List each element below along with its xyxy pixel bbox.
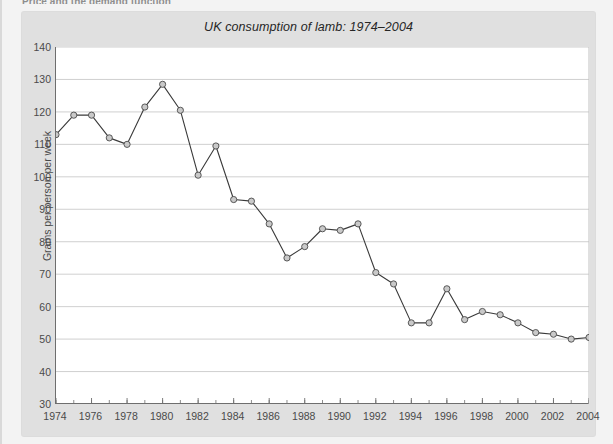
y-axis-tick-label: 40	[39, 366, 51, 378]
data-point	[248, 198, 254, 204]
x-axis-tick-label: 1976	[79, 410, 102, 422]
data-point	[568, 336, 574, 342]
data-point	[106, 135, 112, 141]
x-axis-tick-label: 2000	[505, 410, 528, 422]
data-point	[337, 227, 343, 233]
data-point	[390, 281, 396, 287]
data-point	[71, 112, 77, 118]
x-axis-tick-label: 1974	[43, 410, 66, 422]
x-axis-tick-label: 1980	[150, 410, 173, 422]
y-axis-tick-label: 60	[39, 301, 51, 313]
y-axis-tick-label: 80	[39, 236, 51, 248]
page-left-rule	[0, 0, 2, 444]
gridlines	[56, 47, 589, 372]
data-point	[142, 104, 148, 110]
y-axis-tick-label: 30	[39, 398, 51, 410]
data-point	[213, 143, 219, 149]
x-axis-tick-label: 1990	[328, 410, 351, 422]
data-point	[533, 330, 539, 336]
y-axis-tick-label: 120	[33, 106, 51, 118]
data-point	[586, 334, 589, 340]
x-axis-tick-label: 1998	[470, 410, 493, 422]
chart-title: UK consumption of lamb: 1974–2004	[22, 20, 595, 34]
y-axis-tick-label: 130	[33, 73, 51, 85]
data-point	[284, 255, 290, 261]
data-point	[550, 331, 556, 337]
x-axis-tick-label: 1988	[292, 410, 315, 422]
data-point	[408, 320, 414, 326]
y-axis-tick-label: 50	[39, 333, 51, 345]
data-point	[373, 269, 379, 275]
page-heading: Price and the demand function	[22, 0, 171, 4]
y-axis-tick-label: 110	[34, 138, 51, 150]
data-point	[497, 312, 503, 318]
x-axis-tick-label: 1994	[399, 410, 422, 422]
y-axis-tick-label: 100	[33, 171, 51, 183]
data-point	[426, 320, 432, 326]
x-axis-minor-ticks	[56, 400, 589, 404]
x-axis-tick-label: 1984	[221, 410, 244, 422]
data-point	[160, 81, 166, 87]
data-point	[266, 221, 272, 227]
data-point	[177, 107, 183, 113]
x-axis-tick-label: 1978	[114, 410, 137, 422]
data-point	[515, 320, 521, 326]
data-point	[302, 244, 308, 250]
y-axis-tick-label: 140	[33, 41, 51, 53]
x-axis-tick-label: 1986	[257, 410, 280, 422]
x-axis-tick-label: 1992	[363, 410, 386, 422]
data-point	[88, 112, 94, 118]
x-axis-tick-label: 2002	[541, 410, 564, 422]
data-point	[231, 196, 237, 202]
data-point	[195, 172, 201, 178]
series-line-lamb-consumption	[56, 84, 589, 339]
x-axis-tick-label: 2004	[576, 410, 599, 422]
y-axis-tick-label: 90	[39, 203, 51, 215]
x-axis-tick-labels: 1974197619781980198219841986198819901992…	[55, 410, 588, 426]
data-point	[462, 317, 468, 323]
y-axis-tick-labels: 30405060708090100110120130140	[22, 47, 51, 404]
figure-container: UK consumption of lamb: 1974–2004 Grams …	[22, 12, 595, 436]
plot-area	[55, 47, 588, 404]
x-axis-tick-label: 1996	[434, 410, 457, 422]
series-markers-lamb-consumption	[56, 81, 589, 342]
data-point	[319, 226, 325, 232]
data-point	[355, 221, 361, 227]
data-point	[124, 141, 130, 147]
data-point	[56, 132, 59, 138]
y-axis-tick-label: 70	[39, 268, 51, 280]
x-axis-tick-label: 1982	[185, 410, 208, 422]
line-chart-svg	[56, 47, 589, 404]
data-point	[479, 308, 485, 314]
data-point	[444, 286, 450, 292]
